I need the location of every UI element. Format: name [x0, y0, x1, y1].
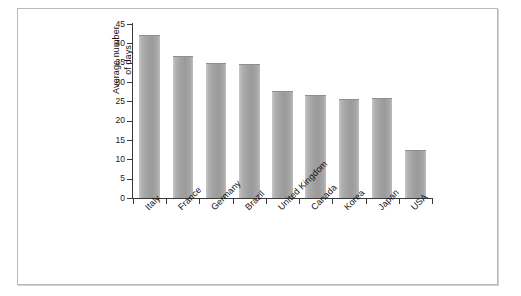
bar: [339, 99, 360, 198]
x-axis-tick: [166, 199, 167, 204]
x-axis-tick: [199, 199, 200, 204]
x-axis-tick: [266, 199, 267, 204]
bar: [206, 63, 227, 198]
x-axis-tick: [299, 199, 300, 204]
y-axis-title: Average number of days: [110, 0, 150, 130]
x-axis-tick: [133, 199, 134, 204]
bar-chart: 051015202530354045 ItalyFranceGermanyBra…: [0, 0, 521, 296]
bar: [173, 56, 194, 198]
x-axis-tick: [432, 199, 433, 204]
y-axis-tick: [127, 179, 132, 180]
y-axis-title-line-2: of days: [122, 0, 134, 130]
x-axis-tick: [399, 199, 400, 204]
x-axis-tick: [366, 199, 367, 204]
bar: [239, 64, 260, 198]
x-axis-tick: [332, 199, 333, 204]
y-axis-tick-label: 5: [103, 174, 125, 183]
bar: [372, 98, 393, 198]
y-axis-tick-label: 10: [103, 155, 125, 164]
x-axis-tick: [233, 199, 234, 204]
y-axis-title-line-1: Average number: [110, 0, 122, 130]
y-axis-tick: [127, 159, 132, 160]
y-axis-tick: [127, 198, 132, 199]
y-axis-tick-label: 15: [103, 136, 125, 145]
bar: [405, 150, 426, 198]
y-axis-tick-label: 0: [103, 194, 125, 203]
y-axis-tick: [127, 140, 132, 141]
plot-area: [133, 24, 432, 198]
bar: [272, 91, 293, 198]
